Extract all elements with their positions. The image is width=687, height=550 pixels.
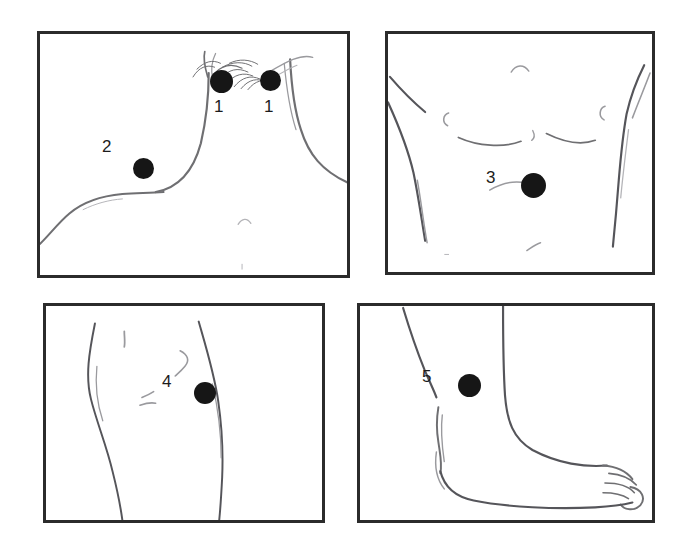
panel-neck-and-shoulders: 1 1 2 [37, 31, 350, 278]
marker-dot-5 [458, 374, 481, 397]
marker-dot-2 [133, 158, 154, 179]
marker-label-3: 3 [486, 169, 495, 186]
marker-dot-4 [194, 382, 216, 404]
marker-label-2: 2 [102, 138, 111, 155]
knee-and-thigh-drawing [46, 306, 322, 520]
marker-dot-1b [260, 70, 281, 91]
marker-dot-3 [521, 173, 546, 198]
panel-chest-and-abdomen: 3 [385, 31, 655, 275]
marker-label-1b: 1 [264, 98, 273, 115]
chest-and-abdomen-drawing [388, 34, 652, 272]
panel-ankle-and-foot: 5 [357, 303, 655, 523]
neck-and-shoulders-drawing [40, 34, 347, 275]
marker-dot-1a [210, 70, 233, 93]
marker-label-5: 5 [422, 368, 431, 385]
figure-grid: 1 1 2 [0, 0, 687, 550]
ankle-and-foot-drawing [360, 306, 652, 520]
panel-knee-and-thigh: 4 [43, 303, 325, 523]
marker-label-1a: 1 [214, 98, 223, 115]
marker-label-4: 4 [162, 373, 171, 390]
